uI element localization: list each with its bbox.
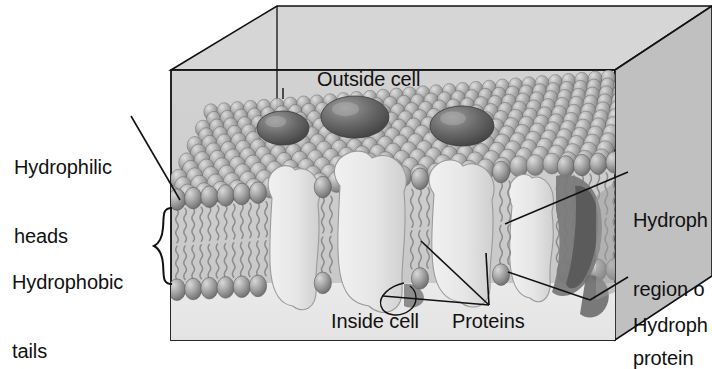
hydrophilic-heads-line1: Hydrophilic [14, 156, 112, 179]
phospholipid-head [590, 153, 607, 175]
phospholipid-head [492, 264, 509, 286]
phospholipid-head [314, 272, 331, 294]
surface-protein-dome [321, 96, 389, 138]
membrane-right-face [596, 182, 615, 300]
transmembrane-protein [429, 160, 494, 307]
label-proteins: Proteins [452, 310, 525, 333]
diagram-canvas: Hydrophilic heads Hydrophobic tails Outs… [0, 0, 712, 369]
phospholipid-head [249, 275, 266, 297]
dome-highlight [265, 116, 286, 128]
label-inside-cell: Inside cell [331, 310, 419, 333]
right-lower-line1: Hydroph [633, 314, 708, 337]
dome-highlight [440, 112, 466, 126]
transmembrane-protein [334, 151, 406, 312]
label-outside-cell: Outside cell [317, 68, 420, 91]
phospholipid-head [411, 168, 428, 190]
phospholipid-head [526, 155, 544, 176]
phospholipid-head [185, 187, 202, 209]
phospholipid-head [217, 185, 234, 207]
phospholipid-head [201, 277, 218, 299]
dome-highlight [332, 102, 359, 116]
phospholipid-head [557, 156, 574, 178]
phospholipid-head [217, 277, 234, 299]
surface-protein-dome [430, 106, 494, 146]
phospholipid-head [411, 268, 428, 290]
label-right-lower: Hydroph region o protein [633, 268, 708, 369]
hydrophobic-brace [154, 208, 172, 284]
phospholipid-head [185, 278, 202, 300]
surface-protein-dome [257, 111, 309, 145]
label-hydrophobic-tails: Hydrophobic tails [12, 225, 123, 369]
phospholipid-head [201, 186, 218, 208]
phospholipid-head [233, 276, 250, 298]
phospholipid-head [573, 154, 590, 176]
phospholipid-head [249, 182, 266, 204]
transmembrane-protein [268, 166, 319, 310]
transmembrane-protein [509, 174, 554, 301]
right-upper-line1: Hydroph [633, 209, 708, 232]
phospholipid-head [510, 156, 528, 177]
phospholipid-head [492, 161, 509, 183]
hydrophobic-tails-line1: Hydrophobic [12, 271, 123, 294]
phospholipid-head [233, 183, 250, 205]
phospholipid-head [314, 176, 331, 198]
hydrophobic-tails-line2: tails [12, 340, 123, 363]
